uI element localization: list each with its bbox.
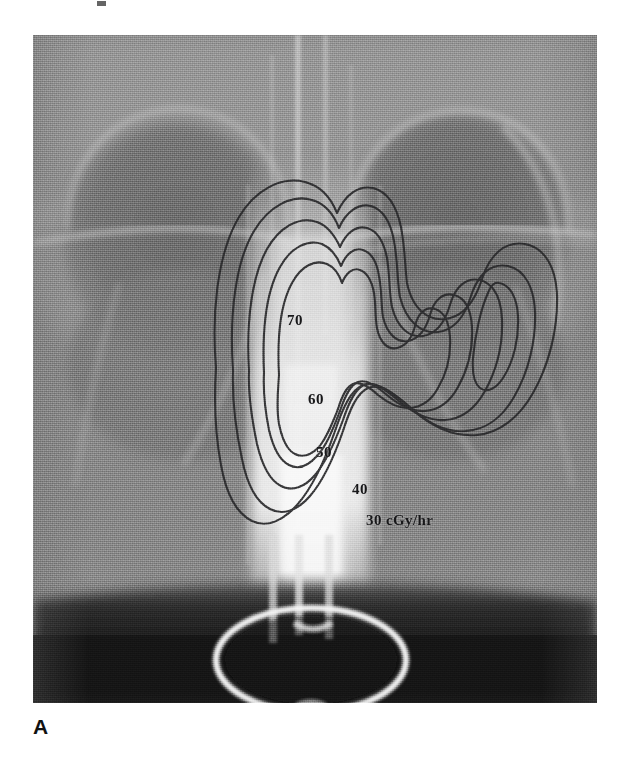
scan-artifact-speck <box>97 1 106 6</box>
isodose-contour-70 <box>277 262 450 455</box>
isodose-contour-30 <box>215 181 558 524</box>
isodose-right-lobe-inner <box>473 283 518 390</box>
isodose-label-70: 70 <box>287 313 303 328</box>
isodose-contour-layer <box>33 35 597 703</box>
isodose-label-50: 50 <box>316 445 332 460</box>
figure-root: 70 60 50 40 30 cGy/hr A <box>0 0 628 760</box>
isodose-label-40: 40 <box>352 482 368 497</box>
isodose-label-60: 60 <box>308 392 324 407</box>
radiograph-image: 70 60 50 40 30 cGy/hr <box>33 35 597 703</box>
panel-letter-a: A <box>33 716 48 737</box>
isodose-label-30-cgy-hr: 30 cGy/hr <box>366 513 433 528</box>
